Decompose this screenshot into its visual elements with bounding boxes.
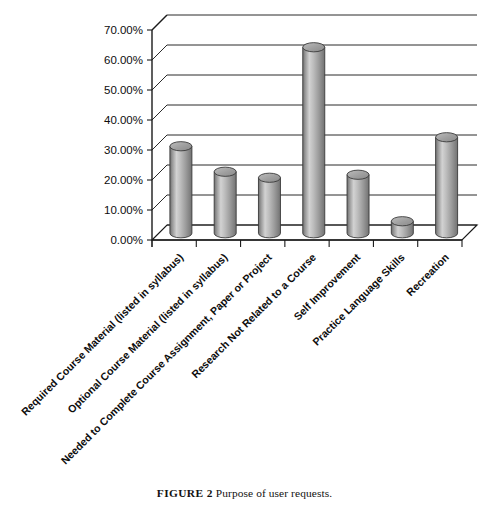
figure-caption-text: Purpose of user requests. — [216, 487, 332, 499]
y-axis-tick-label: 0.00% — [110, 234, 143, 246]
x-axis-category-label: Required Course Material (listed in syll… — [19, 251, 186, 418]
figure-caption-label: FIGURE 2 — [157, 487, 213, 499]
x-axis-category-label: Practice Language Skills — [310, 251, 407, 348]
y-axis-tick-label: 40.00% — [104, 114, 143, 126]
bar-cylinder — [303, 43, 325, 238]
y-axis-tick-label: 30.00% — [104, 144, 143, 156]
x-axis-category-label: Optional Course Material (listed in syll… — [65, 251, 230, 416]
bar-cylinder — [258, 173, 280, 238]
bar-cylinder — [391, 217, 413, 238]
bar-cylinder — [436, 133, 458, 238]
bar-cylinder — [214, 167, 236, 238]
figure-caption: FIGURE 2 Purpose of user requests. — [0, 487, 489, 499]
y-axis-tick-label: 50.00% — [104, 84, 143, 96]
y-axis-tick-label: 20.00% — [104, 174, 143, 186]
y-axis-tick-label: 70.00% — [104, 24, 143, 36]
bar-cylinder — [347, 170, 369, 238]
bar-chart: 0.00%10.00%20.00%30.00%40.00%50.00%60.00… — [0, 0, 489, 470]
y-axis-tick-label: 10.00% — [104, 204, 143, 216]
y-axis-tick-label: 60.00% — [104, 54, 143, 66]
figure-container: 0.00%10.00%20.00%30.00%40.00%50.00%60.00… — [0, 0, 489, 516]
x-axis-category-label: Needed to Complete Course Assignment, Pa… — [58, 251, 274, 467]
x-axis-category-label: Recreation — [404, 251, 451, 298]
bar-cylinder — [170, 142, 192, 238]
